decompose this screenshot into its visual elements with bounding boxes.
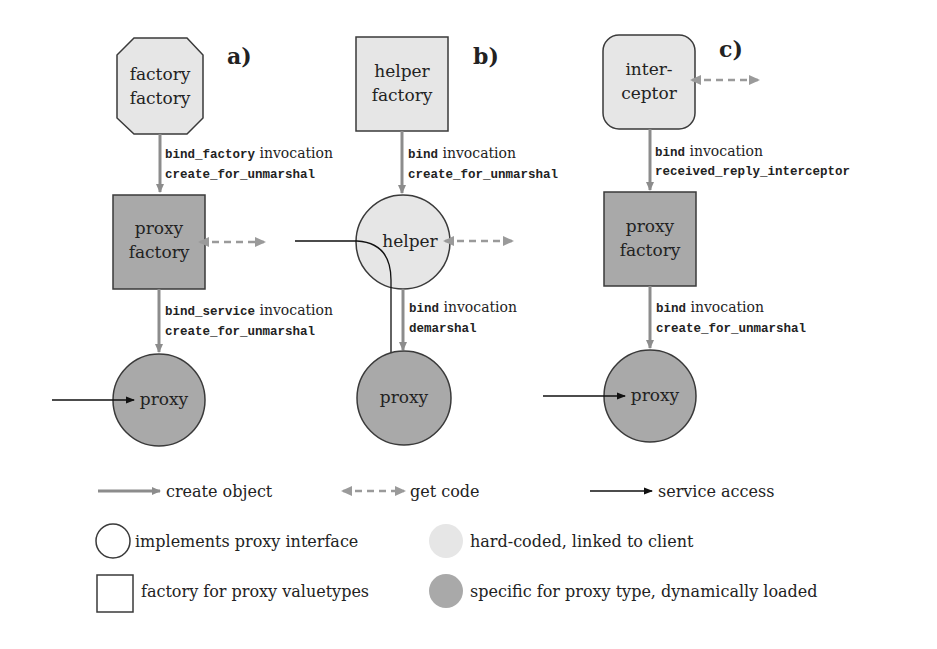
- panel-a-label: a): [227, 43, 252, 69]
- edge-label: bind invocation: [409, 299, 517, 316]
- proxy-factory-node: proxy factory: [604, 192, 696, 286]
- legend-factory-for-proxy-valuetypes: factory for proxy valuetypes: [97, 575, 369, 612]
- legend: create object get code service access im…: [96, 482, 818, 612]
- rounded-square-shape: [603, 35, 695, 129]
- legend-service-access: service access: [590, 482, 774, 501]
- proxy-factory-node: proxy factory: [113, 195, 205, 289]
- legend-label: implements proxy interface: [135, 532, 358, 551]
- edge-label: demarshal: [409, 322, 477, 336]
- edge-label: create_for_unmarshal: [408, 168, 558, 182]
- proxy-node: proxy: [357, 351, 451, 445]
- legend-label: get code: [410, 482, 480, 501]
- node-label: proxy: [140, 389, 189, 409]
- edge-label: bind_service invocation: [165, 302, 333, 319]
- square-shape: [604, 192, 696, 286]
- node-label: ceptor: [621, 83, 678, 103]
- edge-label: bind_factory invocation: [165, 145, 333, 162]
- node-label: proxy: [380, 387, 429, 407]
- node-label: factory: [130, 88, 191, 108]
- panel-c-label: c): [719, 36, 743, 62]
- legend-hard-coded: hard-coded, linked to client: [429, 524, 694, 558]
- legend-label: specific for proxy type, dynamically loa…: [470, 582, 818, 601]
- light-filled-circle-icon: [429, 524, 463, 558]
- edge-label: create_for_unmarshal: [165, 325, 315, 339]
- node-label: helper: [374, 61, 430, 81]
- legend-label: factory for proxy valuetypes: [141, 582, 369, 601]
- panel-c: c) inter- ceptor bind invocation receive…: [543, 35, 850, 442]
- circle-outline-icon: [96, 524, 130, 558]
- edge-label: create_for_unmarshal: [165, 168, 315, 182]
- dark-filled-circle-icon: [429, 574, 463, 608]
- panel-b-label: b): [473, 43, 499, 69]
- edge-label: bind invocation: [408, 145, 516, 162]
- node-label: factory: [130, 64, 191, 84]
- square-shape: [356, 37, 448, 131]
- proxy-loading-diagram: a) factory factory bind_factory invocati…: [0, 0, 937, 649]
- node-label: factory: [372, 85, 433, 105]
- edge-label: bind invocation: [655, 143, 763, 160]
- edge-label: received_reply_interceptor: [655, 165, 850, 179]
- legend-create-object: create object: [98, 482, 273, 501]
- legend-label: service access: [658, 482, 774, 501]
- node-label: proxy: [631, 385, 680, 405]
- panel-b: b) helper factory bind invocation create…: [295, 37, 558, 445]
- edge-label: bind invocation: [656, 299, 764, 316]
- legend-dynamically-loaded: specific for proxy type, dynamically loa…: [429, 574, 818, 608]
- node-label: proxy: [626, 216, 675, 236]
- octagon-shape: [117, 38, 203, 134]
- legend-label: hard-coded, linked to client: [470, 532, 694, 551]
- legend-get-code: get code: [343, 482, 480, 501]
- factory-factory-node: factory factory: [117, 38, 203, 134]
- node-label: factory: [129, 242, 190, 262]
- node-label: factory: [620, 240, 681, 260]
- panel-a: a) factory factory bind_factory invocati…: [52, 38, 333, 446]
- legend-implements-proxy-interface: implements proxy interface: [96, 524, 358, 558]
- node-label: inter-: [625, 59, 672, 79]
- legend-label: create object: [166, 482, 273, 501]
- helper-factory-node: helper factory: [356, 37, 448, 131]
- edge-label: create_for_unmarshal: [656, 322, 806, 336]
- interceptor-node: inter- ceptor: [603, 35, 695, 129]
- node-label: proxy: [135, 218, 184, 238]
- helper-node: helper: [356, 195, 450, 289]
- square-outline-icon: [97, 575, 133, 612]
- node-label: helper: [382, 231, 438, 251]
